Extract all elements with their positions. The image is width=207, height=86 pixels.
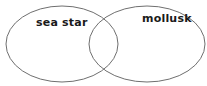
venn-label-sea-star: sea star xyxy=(36,17,88,28)
venn-label-mollusk: mollusk xyxy=(142,13,192,24)
venn-diagram: sea star mollusk xyxy=(0,0,207,86)
